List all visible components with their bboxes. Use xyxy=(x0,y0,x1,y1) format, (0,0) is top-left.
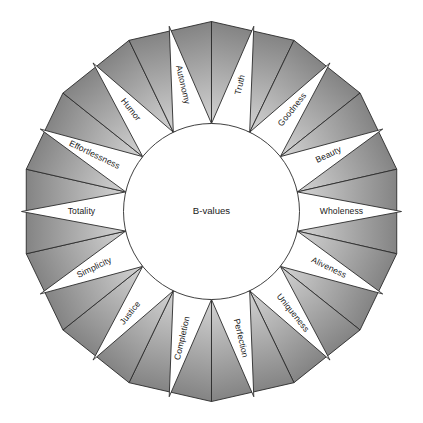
b-values-wheel-svg: TruthGoodnessBeautyWholenessAlivenessUni… xyxy=(0,0,423,423)
spike-label: Wholeness xyxy=(320,206,363,216)
spike-label: Totality xyxy=(68,206,96,216)
center-label: B-values xyxy=(193,205,231,216)
b-values-diagram: TruthGoodnessBeautyWholenessAlivenessUni… xyxy=(0,0,423,423)
